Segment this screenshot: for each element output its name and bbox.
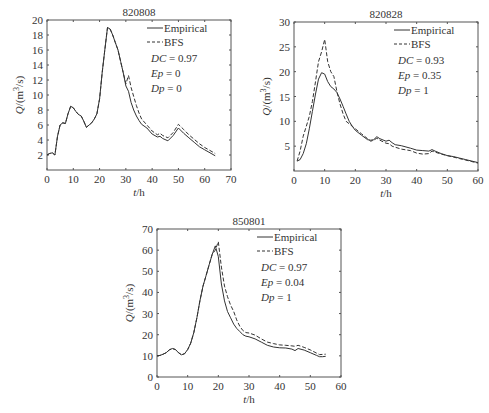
chart-850801: 8508010102030405060010203040506070t/hQ/(… — [122, 215, 348, 405]
series-empirical — [47, 28, 215, 156]
chart-title: 820828 — [370, 8, 404, 20]
y-tick-label: 70 — [142, 223, 154, 235]
x-tick-label: 60 — [336, 380, 348, 392]
y-tick-label: 12 — [32, 74, 43, 86]
annotation-dc: DC = 0.97 — [150, 52, 198, 64]
x-tick-label: 50 — [442, 174, 454, 186]
x-tick-label: 20 — [213, 380, 225, 392]
annotation-ep: Ep = 0.04 — [260, 276, 305, 288]
y-tick-label: 30 — [279, 16, 291, 28]
x-axis-label: t/h — [133, 186, 145, 198]
y-tick-label: 10 — [142, 350, 154, 362]
x-tick-label: 30 — [244, 380, 256, 392]
x-tick-label: 20 — [350, 174, 362, 186]
chart-title: 820808 — [123, 6, 157, 18]
x-tick-label: 40 — [147, 173, 159, 185]
y-tick-label: 20 — [32, 14, 44, 26]
figure: 8208080102030405060702468101214161820t/h… — [0, 0, 489, 413]
x-tick-label: 70 — [226, 173, 238, 185]
series-bfs — [47, 28, 215, 156]
x-tick-label: 0 — [291, 174, 297, 186]
x-tick-label: 0 — [154, 380, 160, 392]
series-empirical — [297, 73, 478, 163]
chart-820828: 820828010203040506051015202530t/hQ/(m3/s… — [259, 8, 485, 199]
x-axis-label: t/h — [243, 393, 255, 405]
y-tick-label: 50 — [142, 265, 154, 277]
annotation-ep: Ep = 0 — [150, 67, 181, 79]
chart-820808: 8208080102030405060702468101214161820t/h… — [12, 6, 238, 198]
y-tick-label: 5 — [285, 140, 291, 152]
y-tick-label: 6 — [38, 119, 44, 131]
y-tick-label: 14 — [32, 59, 44, 71]
y-tick-label: 40 — [142, 286, 154, 298]
y-tick-label: 8 — [38, 104, 44, 116]
y-tick-label: 4 — [38, 134, 44, 146]
x-axis-label: t/h — [380, 187, 392, 199]
x-tick-label: 30 — [381, 174, 393, 186]
legend-label: BFS — [164, 36, 184, 48]
y-tick-label: 18 — [32, 29, 44, 41]
y-tick-label: 20 — [279, 66, 291, 78]
annotation-dp: Dp = 0 — [150, 82, 182, 94]
y-tick-label: 10 — [32, 89, 44, 101]
series-bfs — [157, 242, 326, 356]
x-tick-label: 40 — [411, 174, 423, 186]
legend-label: Empirical — [164, 22, 207, 34]
y-tick-label: 30 — [142, 308, 154, 320]
axes-frame — [294, 22, 478, 171]
y-tick-label: 0 — [148, 371, 154, 383]
legend-label: Empirical — [274, 231, 317, 243]
y-tick-label: 60 — [142, 244, 154, 256]
annotation-ep: Ep = 0.35 — [397, 69, 442, 81]
series-bfs — [297, 39, 478, 163]
x-tick-label: 0 — [44, 173, 50, 185]
y-axis-label: Q/(m3/s) — [122, 284, 137, 323]
y-tick-label: 20 — [142, 329, 154, 341]
annotation-dp: Dp = 1 — [397, 84, 429, 96]
y-axis-label: Q/(m3/s) — [12, 76, 27, 115]
x-tick-label: 50 — [173, 173, 185, 185]
annotation-dp: Dp = 1 — [260, 291, 292, 303]
axes-frame — [157, 229, 341, 377]
y-tick-label: 25 — [279, 41, 291, 53]
legend-label: BFS — [411, 38, 431, 50]
legend-label: BFS — [274, 245, 294, 257]
x-tick-label: 60 — [473, 174, 485, 186]
x-tick-label: 20 — [94, 173, 106, 185]
x-tick-label: 10 — [68, 173, 80, 185]
y-tick-label: 10 — [279, 115, 291, 127]
x-tick-label: 10 — [182, 380, 194, 392]
axes-frame — [47, 20, 231, 170]
annotation-dc: DC = 0.97 — [260, 261, 308, 273]
x-tick-label: 50 — [305, 380, 317, 392]
y-axis-label: Q/(m3/s) — [259, 77, 274, 116]
x-tick-label: 10 — [319, 174, 331, 186]
y-tick-label: 15 — [279, 91, 291, 103]
y-tick-label: 2 — [38, 149, 44, 161]
x-tick-label: 40 — [274, 380, 286, 392]
x-tick-label: 30 — [120, 173, 132, 185]
chart-title: 850801 — [233, 215, 266, 227]
x-tick-label: 60 — [199, 173, 211, 185]
legend-label: Empirical — [411, 24, 454, 36]
y-tick-label: 16 — [32, 44, 44, 56]
annotation-dc: DC = 0.93 — [397, 54, 445, 66]
